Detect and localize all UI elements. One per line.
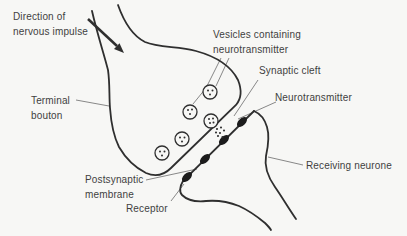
vesicles-containing-label: Vesicles containing neurotransmitter: [213, 28, 301, 57]
vesicles: [155, 85, 218, 160]
leader-receptor: [171, 184, 184, 201]
vesicle: [203, 85, 217, 99]
vesicle-circle: [183, 105, 197, 119]
fused-vesicle: [204, 114, 218, 128]
postsynaptic-membrane-line: [180, 111, 271, 230]
vesicle-circle: [175, 132, 189, 146]
leader-neurotransmitter: [238, 102, 276, 119]
receiving-neurone-right-edge: [254, 111, 296, 219]
direction-of-impulse-label: Direction of nervous impulse: [13, 10, 88, 39]
vesicle-circle: [203, 85, 217, 99]
impulse-arrow-shaft: [88, 19, 117, 46]
receptor-label: Receptor: [126, 202, 168, 217]
vesicle: [175, 132, 189, 146]
terminal-bouton-label: Terminal bouton: [31, 94, 70, 123]
vesicle-circle: [155, 146, 169, 160]
postsynaptic-membrane-label: Postsynaptic membrane: [85, 173, 144, 202]
receiving-neurone-outline: [180, 111, 296, 230]
leader-terminal-bouton: [76, 100, 109, 106]
neurotransmitter-label: Neurotransmitter: [275, 91, 352, 106]
synaptic-cleft-label: Synaptic cleft: [259, 64, 321, 79]
vesicle-circle: [204, 114, 218, 128]
vesicle: [183, 105, 197, 119]
leader-receiving-neurone: [268, 157, 303, 165]
vesicle: [155, 146, 169, 160]
synapse-diagram: Direction of nervous impulse Vesicles co…: [0, 0, 407, 236]
receiving-neurone-label: Receiving neurone: [306, 159, 392, 174]
impulse-arrow: [88, 19, 124, 53]
